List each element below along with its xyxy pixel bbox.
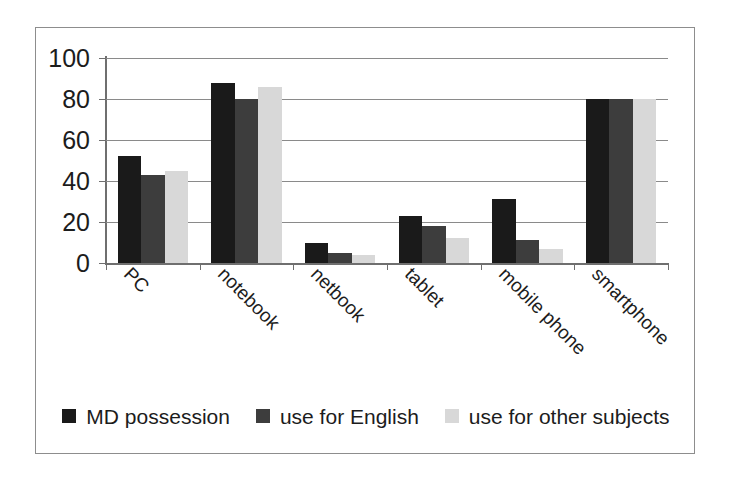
bar — [258, 87, 281, 263]
y-axis-tick-mark — [99, 222, 106, 223]
legend-label: MD possession — [86, 406, 230, 427]
y-axis-tick-label: 0 — [76, 251, 90, 276]
bar-group — [118, 58, 188, 263]
plot-wrapper: 020406080100 PCnotebooknetbooktabletmobi… — [36, 28, 696, 328]
legend-swatch-icon — [62, 409, 76, 423]
y-axis-tick-mark — [99, 99, 106, 100]
bar — [492, 199, 515, 263]
bar — [586, 99, 609, 263]
x-axis-category-label: mobile phone — [495, 264, 590, 359]
x-axis-category-label: netbook — [307, 264, 369, 326]
x-axis-category-label: notebook — [214, 264, 283, 333]
legend-entry: use for English — [256, 406, 419, 427]
x-axis-category-label: smartphone — [588, 264, 673, 349]
bar — [305, 243, 328, 264]
y-axis-tick-label: 40 — [62, 169, 90, 194]
bar — [633, 99, 656, 263]
bar — [422, 226, 445, 263]
chart-frame: 020406080100 PCnotebooknetbooktabletmobi… — [35, 27, 695, 454]
y-axis-tick-labels: 020406080100 — [36, 28, 98, 264]
x-axis-tick-mark — [668, 263, 669, 270]
y-axis-tick-mark — [99, 181, 106, 182]
y-axis-tick-label: 60 — [62, 128, 90, 153]
y-axis-tick-mark — [99, 140, 106, 141]
bar — [352, 255, 375, 263]
chart-legend: MD possessionuse for Englishuse for othe… — [36, 396, 696, 436]
bar-group — [586, 58, 656, 263]
gridline — [106, 222, 668, 223]
bar — [539, 249, 562, 263]
bar — [516, 240, 539, 263]
bar — [141, 175, 164, 263]
gridline — [106, 58, 668, 59]
legend-entry: MD possession — [62, 406, 230, 427]
bar — [328, 253, 351, 263]
legend-label: use for English — [280, 406, 419, 427]
gridline — [106, 99, 668, 100]
gridline — [106, 140, 668, 141]
bar — [211, 83, 234, 263]
bar — [118, 156, 141, 263]
y-axis-tick-label: 80 — [62, 87, 90, 112]
bar-group — [399, 58, 469, 263]
y-axis-tick-label: 20 — [62, 210, 90, 235]
plot-area — [106, 58, 668, 263]
x-axis-category-label: tablet — [401, 264, 448, 311]
x-axis-category-labels: PCnotebooknetbooktabletmobile phonesmart… — [106, 264, 668, 384]
y-axis-tick-label: 100 — [48, 46, 90, 71]
bar-group — [305, 58, 375, 263]
bar — [446, 238, 469, 263]
y-axis-line — [105, 56, 107, 265]
bar — [609, 99, 632, 263]
bar — [399, 216, 422, 263]
legend-swatch-icon — [256, 409, 270, 423]
legend-label: use for other subjects — [469, 406, 670, 427]
bar — [235, 99, 258, 263]
y-axis-tick-mark — [99, 58, 106, 59]
y-axis-tick-mark — [99, 263, 106, 264]
legend-swatch-icon — [445, 409, 459, 423]
gridline — [106, 181, 668, 182]
x-axis-category-label: PC — [120, 264, 153, 297]
bar — [165, 171, 188, 263]
legend-entry: use for other subjects — [445, 406, 670, 427]
bar-group — [211, 58, 281, 263]
bar-group — [492, 58, 562, 263]
